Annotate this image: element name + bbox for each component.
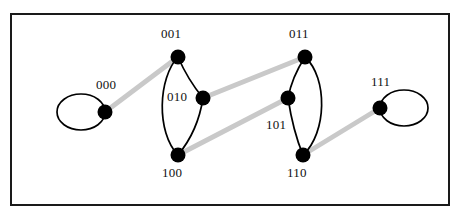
node-011[interactable]	[298, 50, 313, 65]
gray-edge-group	[105, 57, 380, 155]
edge-110-111[interactable]	[303, 108, 380, 155]
node-label-111: 111	[371, 75, 390, 88]
de-bruijn-graph-figure: 000 001 010 011 100 101 110 111	[0, 0, 459, 220]
node-label-011: 011	[289, 27, 309, 40]
edge-101-110[interactable]	[288, 98, 303, 155]
node-label-000: 000	[96, 78, 116, 91]
graph-canvas	[0, 0, 459, 220]
node-111[interactable]	[373, 101, 388, 116]
edge-001-100[interactable]	[162, 57, 178, 155]
node-label-100: 100	[162, 166, 182, 179]
node-label-101: 101	[266, 118, 286, 131]
node-label-001: 001	[161, 27, 181, 40]
node-101[interactable]	[281, 91, 296, 106]
node-label-110: 110	[287, 166, 307, 179]
node-001[interactable]	[171, 50, 186, 65]
edge-011-110[interactable]	[303, 57, 322, 155]
black-edge-group	[162, 57, 321, 155]
node-010[interactable]	[196, 91, 211, 106]
node-100[interactable]	[171, 148, 186, 163]
node-group	[98, 50, 388, 163]
node-000[interactable]	[98, 105, 113, 120]
node-label-010: 010	[167, 90, 187, 103]
node-110[interactable]	[296, 148, 311, 163]
